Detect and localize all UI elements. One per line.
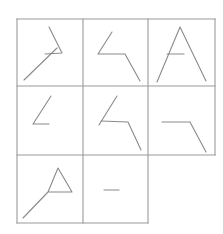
abstract-reasoning-matrix	[0, 0, 223, 234]
canvas-background	[0, 0, 223, 234]
